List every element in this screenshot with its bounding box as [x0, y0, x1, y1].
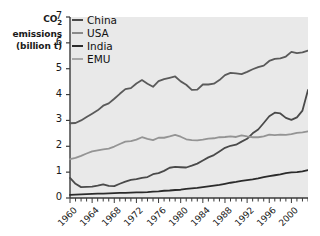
legend-item-usa[interactable]: USA: [72, 27, 117, 39]
y-axis-tick-label: 4: [48, 88, 62, 99]
legend-item-label: India: [87, 40, 113, 52]
y-axis-tick-label: 6: [48, 36, 62, 47]
legend-item-india[interactable]: India: [72, 40, 117, 52]
y-axis-tick-label: 5: [48, 62, 62, 73]
legend-item-emu[interactable]: EMU: [72, 53, 117, 65]
legend-item-china[interactable]: China: [72, 14, 117, 26]
y-axis-tick-label: 0: [48, 191, 62, 202]
legend-swatch-icon: [72, 19, 83, 21]
co2-emissions-line-chart: CO2 emissions (billion t) ChinaUSAIndiaE…: [0, 0, 320, 236]
y-axis-tick-label: 7: [48, 10, 62, 21]
legend-item-label: China: [87, 14, 117, 26]
plot-right-mask: [308, 0, 320, 236]
y-axis-tick-label: 3: [48, 113, 62, 124]
legend-swatch-icon: [72, 45, 83, 47]
legend-swatch-icon: [72, 58, 83, 60]
legend-item-label: USA: [87, 27, 109, 39]
legend-item-label: EMU: [87, 53, 110, 65]
y-axis-tick-label: 1: [48, 165, 62, 176]
legend-swatch-icon: [72, 32, 83, 34]
y-axis-tick-label: 2: [48, 139, 62, 150]
chart-legend: ChinaUSAIndiaEMU: [72, 14, 117, 66]
